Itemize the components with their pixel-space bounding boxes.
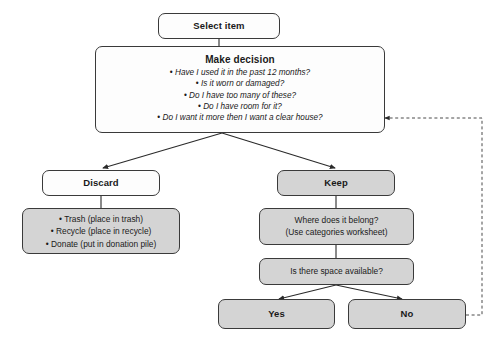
node-make-decision[interactable]: Make decision Have I used it in the past… [95, 46, 385, 133]
edge-space-to-yes [279, 285, 336, 299]
list-item: Is it worn or damaged? [157, 78, 322, 89]
where-belong-line-2: (Use categories worksheet) [286, 227, 388, 239]
edge-decision-to-keep [222, 133, 335, 168]
node-keep-label: Keep [324, 177, 348, 188]
node-discard-label: Discard [83, 177, 119, 188]
node-select-item[interactable]: Select item [158, 13, 280, 39]
make-decision-criteria-list: Have I used it in the past 12 months? Is… [157, 67, 322, 124]
node-discard[interactable]: Discard [42, 170, 160, 196]
node-where-does-it-belong[interactable]: Where does it belong? (Use categories wo… [259, 208, 414, 245]
list-item: Donate (put in donation pile) [46, 238, 157, 250]
list-item: Trash (place in trash) [46, 213, 157, 225]
where-belong-line-1: Where does it belong? [295, 215, 379, 227]
node-make-decision-title: Make decision [205, 54, 275, 66]
node-no[interactable]: No [348, 299, 466, 329]
list-item: Do I have room for it? [157, 101, 322, 112]
space-available-label: Is there space available? [290, 266, 383, 278]
edge-decision-to-discard [103, 133, 222, 168]
discard-actions-list: Trash (place in trash) Recycle (place in… [46, 213, 157, 250]
node-discard-actions[interactable]: Trash (place in trash) Recycle (place in… [22, 208, 180, 254]
flowchart-canvas: Select item Make decision Have I used it… [0, 0, 494, 345]
node-no-label: No [401, 308, 414, 319]
node-is-there-space-available[interactable]: Is there space available? [259, 258, 414, 285]
edge-space-to-no [336, 285, 402, 299]
node-select-item-label: Select item [193, 20, 244, 31]
list-item: Do I want it more then I want a clear ho… [157, 112, 322, 123]
list-item: Have I used it in the past 12 months? [157, 67, 322, 78]
node-yes[interactable]: Yes [218, 299, 335, 329]
node-keep[interactable]: Keep [277, 170, 395, 196]
node-yes-label: Yes [268, 308, 285, 319]
list-item: Recycle (place in recycle) [46, 225, 157, 237]
list-item: Do I have too many of these? [157, 90, 322, 101]
